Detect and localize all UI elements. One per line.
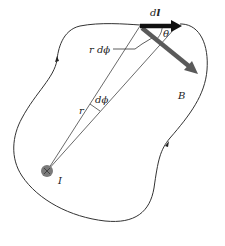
closed-loop-curve [14, 24, 208, 222]
label-B: B [178, 91, 185, 101]
label-r-dphi: r dϕ [89, 45, 110, 55]
dphi-tick [90, 104, 100, 111]
r-dphi-leader-line [113, 38, 152, 49]
radial-line-r-dphi [47, 27, 176, 171]
label-r: r [79, 106, 84, 116]
loop-direction-arrow-left [55, 56, 59, 62]
ampere-law-diagram: dl θ B r dϕ r dϕ I [0, 0, 225, 246]
label-current-I: I [58, 176, 62, 186]
label-dl: dl [150, 8, 160, 18]
label-dphi: dϕ [95, 95, 108, 105]
label-theta: θ [163, 29, 169, 39]
dl-vector-head [171, 20, 182, 32]
label-dl-l: l [156, 7, 160, 18]
diagram-canvas [0, 0, 225, 246]
